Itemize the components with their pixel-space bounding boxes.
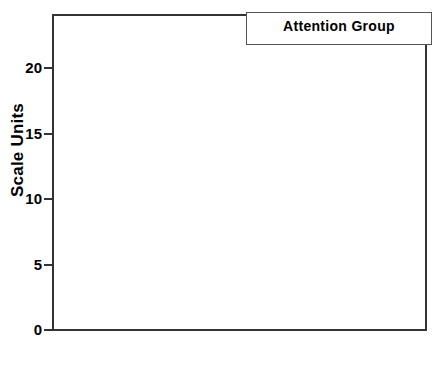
legend: Attention Group — [246, 12, 432, 45]
y-tick-label: 10 — [2, 191, 42, 206]
plot-area — [52, 14, 427, 331]
legend-title: Attention Group — [253, 18, 425, 34]
y-tick-label: 0 — [2, 322, 42, 337]
y-tick-label: 20 — [2, 60, 42, 75]
y-tick-label: 5 — [2, 257, 42, 272]
y-axis-title: Scale Units — [8, 60, 28, 240]
bar-chart: Scale Units 05101520 Attention Group — [0, 0, 440, 365]
y-tick-label: 15 — [2, 126, 42, 141]
